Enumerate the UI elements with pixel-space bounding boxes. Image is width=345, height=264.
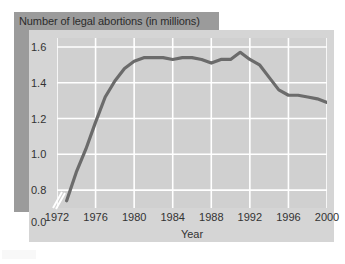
x-axis-title: Year xyxy=(57,228,327,240)
y-tick-1-2: 1.2 xyxy=(31,113,57,125)
chart-title: Number of legal abortions (in millions) xyxy=(19,13,219,29)
x-tick-1996: 1996 xyxy=(276,211,300,223)
y-tick-1-4: 1.4 xyxy=(31,77,57,89)
chart-figure: Number of legal abortions (in millions) … xyxy=(0,0,345,264)
x-tick-1980: 1980 xyxy=(122,211,146,223)
x-tick-1984: 1984 xyxy=(160,211,184,223)
x-tick-2000: 2000 xyxy=(315,211,339,223)
x-tick-1972: 1972 xyxy=(45,211,69,223)
page-footer-mark xyxy=(2,250,36,259)
plot-area xyxy=(57,38,327,208)
y-tick-1-6: 1.6 xyxy=(31,41,57,53)
y-axis-tick-labels: 0.00.81.01.21.41.6 xyxy=(29,38,57,218)
x-tick-1988: 1988 xyxy=(199,211,223,223)
y-tick-1-0: 1.0 xyxy=(31,148,57,160)
x-axis-tick-labels: 19721976198019841988199219962000 xyxy=(57,211,327,227)
y-tick-0-8: 0.8 xyxy=(31,184,57,196)
plot-svg xyxy=(57,38,327,208)
x-tick-1992: 1992 xyxy=(238,211,262,223)
x-tick-1976: 1976 xyxy=(83,211,107,223)
gridlines xyxy=(57,38,327,208)
